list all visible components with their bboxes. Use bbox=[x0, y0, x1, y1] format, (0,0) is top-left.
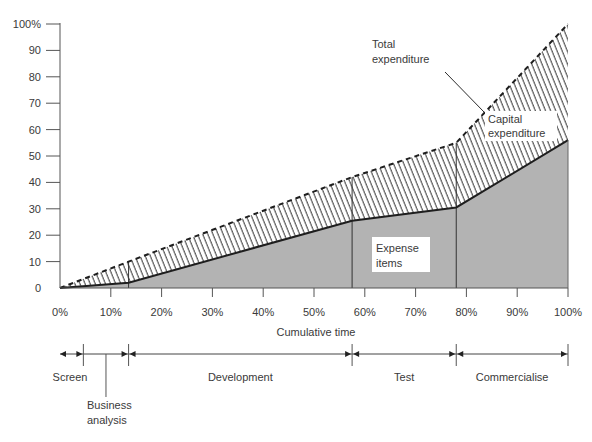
phase-timeline: ScreenBusinessanalysisDevelopmentTestCom… bbox=[53, 344, 568, 426]
y-tick-label: 0 bbox=[35, 282, 41, 294]
capital-expenditure-label-line1: Capital bbox=[488, 113, 522, 125]
expense-items-label-line1: Expense bbox=[376, 242, 419, 254]
phase-label: Commercialise bbox=[476, 371, 549, 383]
arrow-left-icon bbox=[60, 351, 66, 357]
x-tick-label: 50% bbox=[303, 306, 325, 318]
plot-areas bbox=[60, 24, 568, 288]
x-tick-label: 80% bbox=[455, 306, 477, 318]
phase-label: Test bbox=[394, 371, 414, 383]
y-tick-label: 70 bbox=[29, 97, 41, 109]
x-tick-label: 90% bbox=[506, 306, 528, 318]
phase-label: Development bbox=[208, 371, 273, 383]
y-tick-label: 50 bbox=[29, 150, 41, 162]
phase-label: Screen bbox=[53, 371, 88, 383]
x-axis-label: Cumulative time bbox=[277, 326, 356, 338]
arrow-right-icon bbox=[345, 351, 351, 357]
arrow-right-icon bbox=[449, 351, 455, 357]
y-tick-label: 90 bbox=[29, 44, 41, 56]
x-tick-label: 10% bbox=[100, 306, 122, 318]
arrow-left-icon bbox=[130, 351, 136, 357]
expense-items-label-line2: items bbox=[376, 257, 403, 269]
x-tick-label: 100% bbox=[554, 306, 582, 318]
y-tick-label: 30 bbox=[29, 203, 41, 215]
x-tick-label: 0% bbox=[52, 306, 68, 318]
phase-label: analysis bbox=[87, 414, 127, 426]
x-tick-label: 40% bbox=[252, 306, 274, 318]
arrow-right-icon bbox=[76, 351, 82, 357]
y-tick-label: 80 bbox=[29, 71, 41, 83]
arrow-left-icon bbox=[353, 351, 359, 357]
total-expenditure-label-line1: Total bbox=[372, 38, 395, 50]
y-tick-label: 60 bbox=[29, 124, 41, 136]
arrow-right-icon bbox=[122, 351, 128, 357]
x-tick-label: 20% bbox=[151, 306, 173, 318]
x-tick-label: 60% bbox=[354, 306, 376, 318]
y-tick-label: 20 bbox=[29, 229, 41, 241]
total-expenditure-leader bbox=[445, 72, 484, 112]
y-tick-label: 40 bbox=[29, 176, 41, 188]
arrow-left-icon bbox=[457, 351, 463, 357]
x-tick-label: 70% bbox=[405, 306, 427, 318]
arrow-right-icon bbox=[561, 351, 567, 357]
y-tick-label: 10 bbox=[29, 256, 41, 268]
phase-label: Business bbox=[87, 399, 132, 411]
x-tick-label: 30% bbox=[201, 306, 223, 318]
capital-expenditure-label-line2: expenditure bbox=[488, 127, 546, 139]
y-tick-label: 100% bbox=[13, 18, 41, 30]
total-expenditure-label-line2: expenditure bbox=[372, 53, 430, 65]
chart: 0102030405060708090100%0%10%20%30%40%50%… bbox=[0, 0, 592, 442]
